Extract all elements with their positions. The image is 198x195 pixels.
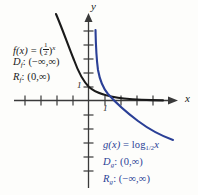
f-base-fraction: 12 (43, 42, 49, 57)
g-curve-logarithmic (96, 30, 174, 140)
f-exponent: x (52, 44, 55, 52)
f-equation: f(x) = (12)x (13, 42, 56, 57)
x-axis-label: x (185, 93, 190, 104)
y-axis-label: y (91, 1, 96, 12)
y-tick-label-1: 1 (77, 81, 82, 90)
function-graph-figure: x y 1 1 f(x) = (12)x Df: (−∞,∞) Rf: (0,∞… (0, 0, 198, 195)
g-log-base: 1/2 (146, 144, 155, 151)
g-equation-lhs: g(x) (103, 139, 120, 150)
f-curve-exponential (56, 14, 163, 100)
f-domain: Df: (−∞,∞) (13, 57, 60, 69)
g-log-argument: x (154, 139, 159, 150)
g-range: Rg: (−∞,∞) (103, 174, 150, 186)
g-range-value: : (−∞,∞) (113, 173, 150, 184)
g-domain: Dg: (0,∞) (103, 157, 143, 169)
g-domain-value: : (0,∞) (114, 156, 143, 167)
f-range: Rf: (0,∞) (13, 72, 50, 84)
f-equation-lhs: f(x) (13, 45, 28, 56)
g-equation: g(x) = log1/2x (103, 140, 159, 152)
f-domain-value: : (−∞,∞) (23, 56, 60, 67)
f-range-value: : (0,∞) (22, 71, 51, 82)
g-domain-symbol: D (103, 156, 111, 167)
x-tick-label-1: 1 (103, 104, 108, 113)
graph-canvas (0, 0, 198, 195)
f-domain-symbol: D (13, 56, 21, 67)
g-log-name: log (132, 139, 146, 150)
